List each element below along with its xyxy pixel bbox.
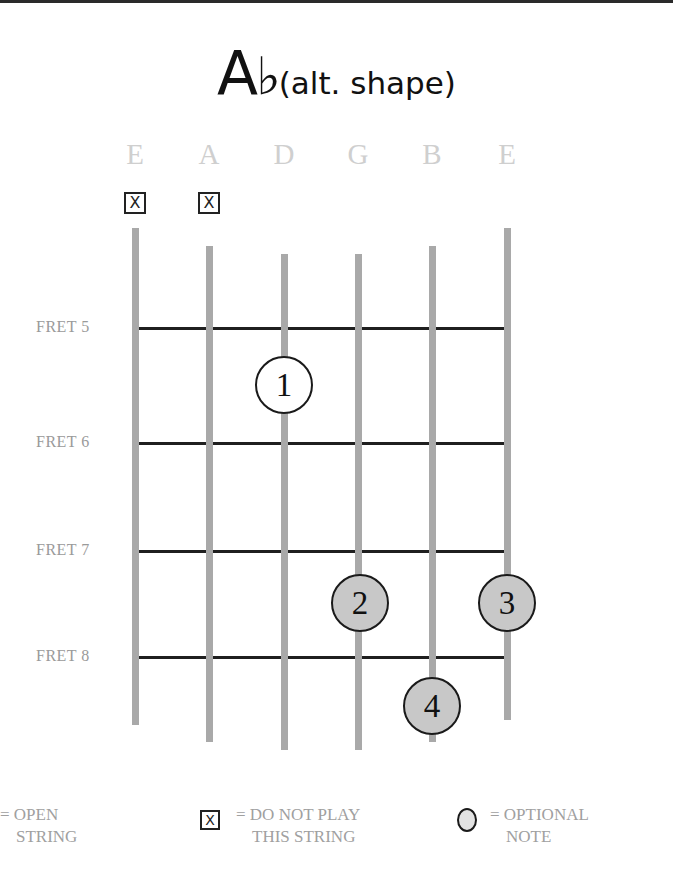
fret-label: FRET 6	[36, 433, 106, 451]
mute-marker-icon: X	[198, 192, 220, 214]
fret-label: FRET 8	[36, 647, 106, 665]
guitar-string	[281, 254, 288, 750]
legend-mute-line2: THIS STRING	[236, 826, 360, 848]
flat-symbol: ♭	[256, 46, 279, 106]
guitar-string	[355, 254, 362, 750]
string-label: A	[194, 138, 224, 171]
fret-line	[138, 550, 510, 553]
optional-note-icon	[457, 808, 477, 832]
guitar-string	[206, 246, 213, 742]
top-border	[0, 0, 673, 3]
legend-mute-line1: = DO NOT PLAY	[236, 804, 360, 826]
finger-position: 3	[478, 574, 536, 632]
finger-position: 4	[403, 677, 461, 735]
fret-label: FRET 5	[36, 318, 106, 336]
chord-title: A♭(alt. shape)	[0, 38, 673, 108]
fret-label: FRET 7	[36, 541, 106, 559]
finger-position: 2	[331, 574, 389, 632]
string-label: D	[269, 138, 299, 171]
fret-line	[138, 442, 510, 445]
string-label: E	[492, 138, 522, 171]
finger-position: 1	[255, 356, 313, 414]
legend-optional-line1: = OPTIONAL	[490, 804, 589, 826]
legend-open-line1: = OPEN	[0, 804, 77, 826]
legend-open-line2: STRING	[0, 826, 77, 848]
chord-root: A	[217, 38, 256, 108]
guitar-string	[429, 246, 436, 742]
fret-line	[138, 656, 510, 659]
legend-open-string: = OPEN STRING	[0, 804, 77, 848]
string-label: B	[417, 138, 447, 171]
legend-do-not-play: = DO NOT PLAY THIS STRING	[236, 804, 360, 848]
mute-marker-icon: X	[124, 192, 146, 214]
string-label: G	[343, 138, 373, 171]
fret-line	[138, 327, 510, 330]
guitar-string	[504, 228, 511, 720]
chord-name: A♭	[217, 38, 279, 108]
legend-optional-note: = OPTIONAL NOTE	[490, 804, 589, 848]
legend-optional-line2: NOTE	[490, 826, 589, 848]
string-label: E	[120, 138, 150, 171]
guitar-string	[132, 228, 139, 725]
mute-icon: X	[200, 810, 220, 830]
chord-subtitle: (alt. shape)	[279, 65, 456, 101]
